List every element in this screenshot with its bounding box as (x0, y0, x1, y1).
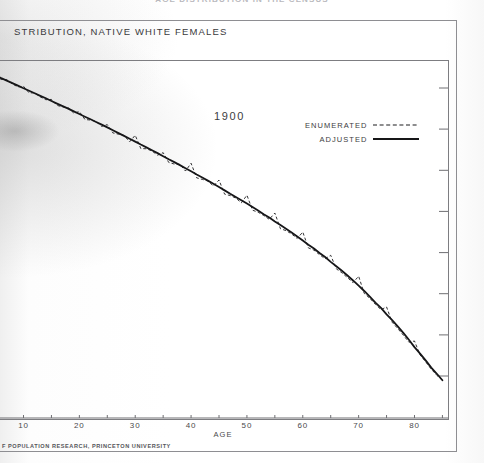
x-axis (0, 415, 448, 427)
x-tick-label-30: 30 (130, 421, 141, 430)
x-tick-label-70: 70 (353, 421, 364, 430)
y-axis-ticks (439, 88, 448, 376)
x-tick-label-80: 80 (409, 421, 420, 430)
chart-legend: ENUMERATED ADJUSTED (305, 118, 419, 146)
legend-label-adjusted: ADJUSTED (319, 135, 367, 144)
legend-swatch-solid (373, 135, 419, 143)
x-tick-label-60: 60 (297, 421, 308, 430)
figure-caption: STRIBUTION, NATIVE WHITE FEMALES (14, 26, 227, 37)
running-head: AGE DISTRIBUTION IN THE CENSUS (0, 0, 484, 7)
x-tick-label-50: 50 (242, 421, 253, 430)
scanned-page: AGE DISTRIBUTION IN THE CENSUS STRIBUTIO… (0, 0, 484, 463)
legend-item-enumerated: ENUMERATED (305, 118, 419, 132)
x-tick-label-20: 20 (74, 421, 85, 430)
legend-item-adjusted: ADJUSTED (305, 132, 419, 146)
legend-label-enumerated: ENUMERATED (305, 121, 367, 130)
chart-plot-area (0, 60, 448, 418)
x-axis-label: AGE (213, 430, 232, 439)
plate-footer: F POPULATION RESEARCH, PRINCETON UNIVERS… (2, 443, 171, 449)
x-tick-label-10: 10 (18, 421, 29, 430)
legend-swatch-dashed (373, 121, 419, 129)
x-tick-label-40: 40 (186, 421, 197, 430)
